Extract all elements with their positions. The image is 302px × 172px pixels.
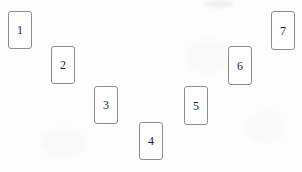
card-7[interactable]: 7 <box>271 11 295 50</box>
card-1[interactable]: 1 <box>8 11 32 49</box>
card-arc-scene: 1 2 3 4 5 6 7 <box>0 0 302 172</box>
card-4[interactable]: 4 <box>139 122 163 160</box>
card-label: 4 <box>148 135 154 147</box>
card-5[interactable]: 5 <box>184 86 208 125</box>
paper-smudge-icon <box>246 110 286 144</box>
card-label: 5 <box>193 100 199 112</box>
card-label: 1 <box>17 24 23 36</box>
paper-smudge-icon <box>40 128 86 158</box>
card-label: 6 <box>237 60 243 72</box>
card-label: 2 <box>60 59 66 71</box>
card-label: 7 <box>280 25 286 37</box>
paper-smudge-icon <box>186 40 230 74</box>
card-6[interactable]: 6 <box>228 46 252 85</box>
scan-artifact-icon <box>203 0 233 8</box>
card-3[interactable]: 3 <box>94 86 118 124</box>
card-label: 3 <box>103 99 109 111</box>
card-2[interactable]: 2 <box>51 46 75 84</box>
